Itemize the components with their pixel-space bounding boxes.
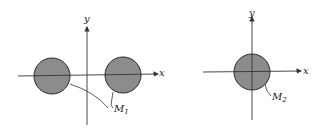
leader-line-m2 [265, 84, 271, 96]
y-axis-label: y [248, 7, 255, 18]
x-axis-label: x [159, 67, 165, 78]
region-label-m1: M1 [113, 103, 129, 116]
figure-left: x y M1 [18, 13, 165, 125]
region-label-m2: M2 [271, 91, 287, 104]
diagram-canvas: x y M1 x y M2 [0, 0, 327, 131]
x-axis-label: x [303, 65, 309, 76]
leader-line-m1-right [111, 92, 113, 108]
y-axis-label: y [83, 13, 90, 24]
leader-line-m1-left [70, 84, 108, 108]
figure-right: x y M2 [203, 7, 309, 120]
